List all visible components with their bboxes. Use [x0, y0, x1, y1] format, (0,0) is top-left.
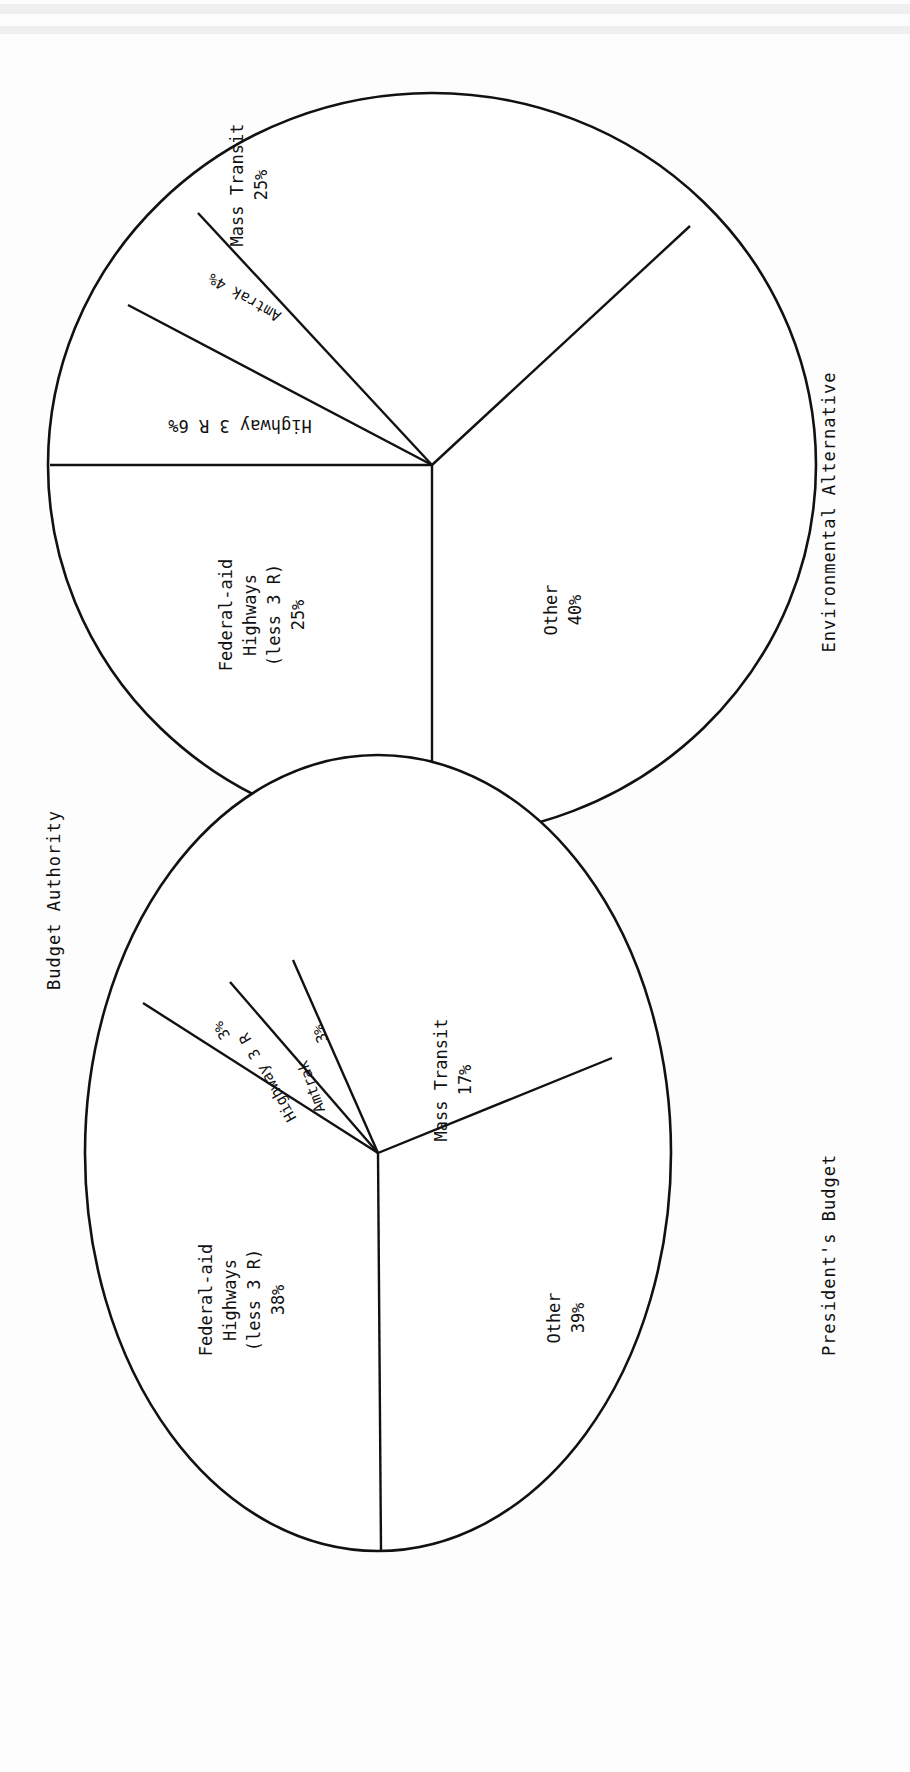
svg-text:President's Budget: President's Budget	[819, 1154, 839, 1356]
pie-charts-figure: Federal-aid Highways (less 3 R) 25% High…	[0, 0, 910, 1772]
svg-text:17%: 17%	[455, 1065, 475, 1096]
scan-bleed-through	[0, 4, 910, 14]
svg-text:Federal-aid: Federal-aid	[196, 1244, 216, 1357]
svg-text:Other: Other	[541, 584, 561, 635]
environmental-alternative-pie: Federal-aid Highways (less 3 R) 25% High…	[48, 93, 816, 837]
page-heading: Budget Authority	[44, 810, 64, 990]
svg-text:Highways: Highways	[220, 1259, 240, 1341]
chart-title-presidents: President's Budget	[819, 1154, 839, 1356]
svg-text:38%: 38%	[268, 1285, 288, 1316]
svg-text:(less 3 R): (less 3 R)	[244, 1249, 264, 1351]
chart-title-environmental: Environmental Alternative	[819, 372, 839, 653]
svg-text:25%: 25%	[288, 600, 308, 631]
svg-text:Highways: Highways	[240, 574, 260, 656]
svg-text:Other: Other	[544, 1292, 564, 1343]
svg-text:39%: 39%	[568, 1303, 588, 1334]
svg-text:(less 3 R): (less 3 R)	[264, 564, 284, 666]
svg-text:Mass Transit: Mass Transit	[431, 1019, 451, 1142]
svg-text:Budget Authority: Budget Authority	[44, 810, 64, 990]
svg-text:Mass Transit: Mass Transit	[227, 124, 247, 247]
svg-text:Highway 3 R 6%: Highway 3 R 6%	[168, 416, 311, 436]
svg-text:Federal-aid: Federal-aid	[216, 559, 236, 672]
presidents-budget-pie: Federal-aid Highways (less 3 R) 38% High…	[85, 755, 671, 1551]
document-page: Federal-aid Highways (less 3 R) 25% High…	[0, 0, 910, 1772]
svg-text:Environmental Alternative: Environmental Alternative	[819, 372, 839, 653]
slice-label-highway-3r: Highway 3 R 6%	[168, 416, 311, 436]
svg-text:25%: 25%	[251, 170, 271, 201]
scan-bleed-through	[0, 26, 910, 34]
svg-text:40%: 40%	[565, 595, 585, 626]
